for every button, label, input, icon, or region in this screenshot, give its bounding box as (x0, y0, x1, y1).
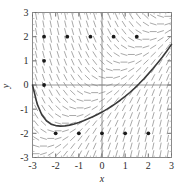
plot-canvas: -3-2-10123 3210-1-2-3 x y (0, 0, 183, 186)
x-tick-label: -3 (28, 160, 36, 171)
y-tick-label: 1 (24, 55, 29, 66)
slope-field-figure: -3-2-10123 3210-1-2-3 x y (0, 0, 183, 186)
x-tick-label: -2 (51, 160, 59, 171)
x-tick-label: 3 (169, 160, 174, 171)
y-tick-label: 2 (24, 31, 29, 42)
x-axis-label: x (99, 173, 105, 184)
y-tick-label: 0 (24, 79, 29, 90)
zero-axis-lines (33, 13, 172, 158)
x-tick-label: 2 (146, 160, 151, 171)
x-tick-label: 0 (100, 160, 105, 171)
y-tick-label: -3 (20, 152, 28, 163)
y-axis-label: y (0, 83, 11, 89)
x-tick-label: -1 (75, 160, 83, 171)
y-tick-label: -2 (20, 128, 28, 139)
y-tick-labels: 3210-1-2-3 (20, 7, 28, 163)
x-tick-label: 1 (123, 160, 128, 171)
y-tick-label: -1 (20, 104, 28, 115)
x-tick-labels: -3-2-10123 (28, 160, 174, 171)
y-tick-label: 3 (24, 7, 29, 18)
